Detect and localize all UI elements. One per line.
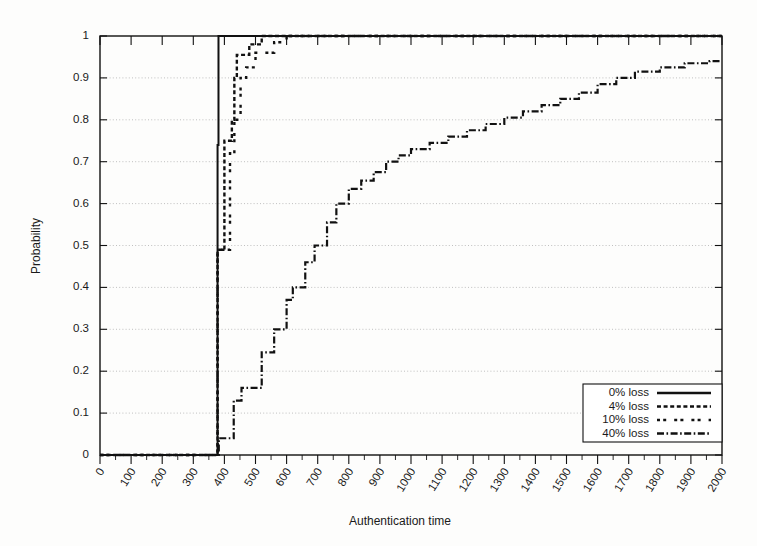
y-tick-label: 1 bbox=[83, 29, 89, 41]
y-axis-label: Probability bbox=[29, 218, 43, 274]
legend-label-2: 10% loss bbox=[602, 413, 649, 425]
x-tick-label: 0 bbox=[93, 466, 107, 478]
x-tick-label: 2000 bbox=[705, 466, 729, 494]
x-tick-label: 1700 bbox=[612, 466, 636, 494]
y-tick-label: 0.4 bbox=[73, 280, 90, 292]
x-tick-label: 1000 bbox=[394, 466, 418, 494]
gridlines-group bbox=[100, 78, 722, 413]
x-tick-label: 1200 bbox=[456, 466, 480, 494]
y-tick-label: 0.7 bbox=[73, 155, 89, 167]
x-tick-label: 500 bbox=[242, 466, 262, 489]
x-tick-label: 900 bbox=[366, 466, 386, 489]
y-tick-label: 0.9 bbox=[73, 71, 89, 83]
x-axis-label: Authentication time bbox=[349, 514, 451, 528]
y-tick-label: 0.8 bbox=[73, 113, 89, 125]
legend-label-3: 40% loss bbox=[602, 427, 649, 439]
x-tick-label: 100 bbox=[117, 466, 137, 489]
x-tick-label: 1500 bbox=[549, 466, 573, 494]
x-tick-label: 1100 bbox=[426, 466, 449, 493]
x-tick-label: 1600 bbox=[581, 466, 605, 494]
x-tick-label: 1300 bbox=[487, 466, 511, 494]
x-tick-label: 300 bbox=[180, 466, 200, 489]
x-tick-label: 1400 bbox=[518, 466, 542, 494]
y-tick-label: 0.5 bbox=[73, 239, 89, 251]
y-tick-label: 0 bbox=[83, 448, 89, 460]
cdf-line-chart: 00.10.20.30.40.50.60.70.80.91 0100200300… bbox=[0, 0, 757, 546]
y-tick-label: 0.6 bbox=[73, 197, 89, 209]
chart-figure: 00.10.20.30.40.50.60.70.80.91 0100200300… bbox=[0, 0, 757, 546]
x-tick-label: 700 bbox=[304, 466, 324, 489]
x-tick-label: 400 bbox=[211, 466, 231, 489]
y-tick-label: 0.2 bbox=[73, 364, 89, 376]
y-tick-label: 0.3 bbox=[73, 322, 89, 334]
legend-label-1: 4% loss bbox=[609, 400, 650, 412]
x-tick-label: 600 bbox=[273, 466, 293, 489]
x-tick-label: 1800 bbox=[643, 466, 667, 494]
legend-label-0: 0% loss bbox=[609, 386, 650, 398]
legend: 0% loss4% loss10% loss40% loss bbox=[583, 384, 722, 442]
y-tick-label: 0.1 bbox=[73, 406, 89, 418]
x-tick-label: 200 bbox=[149, 466, 169, 489]
x-tick-label: 1900 bbox=[674, 466, 698, 494]
x-tick-label: 800 bbox=[335, 466, 355, 489]
